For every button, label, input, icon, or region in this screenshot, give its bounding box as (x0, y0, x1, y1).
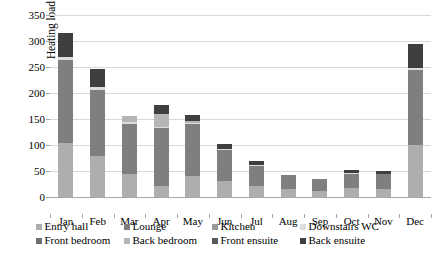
legend-label: Front ensuite (221, 235, 279, 246)
bar-jul[interactable] (249, 161, 264, 197)
plot-area: 050100150200250300350 JanFebMarAprMayJun… (50, 15, 431, 198)
bar-segment[interactable] (249, 186, 264, 197)
x-axis-tick-mark (399, 214, 400, 218)
x-axis-tick-mark (177, 214, 178, 218)
bar-segment[interactable] (90, 90, 105, 156)
bar-segment[interactable] (281, 189, 296, 197)
heating-load-stacked-bar-chart: Heating load (kWh) 050100150200250300350… (0, 0, 439, 268)
bar-dec[interactable] (408, 44, 423, 197)
bar-segment[interactable] (58, 143, 73, 197)
bar-segment[interactable] (408, 44, 423, 68)
bar-segment[interactable] (185, 124, 200, 176)
legend-row: Front bedroomBack bedroomFront ensuiteBa… (36, 235, 404, 246)
x-axis-tick-mark (272, 214, 273, 218)
chart-legend: Entry hallLoungeKitchenDownstairs WCFron… (0, 221, 439, 246)
x-axis-tick-mark (50, 214, 51, 218)
bar-segment[interactable] (58, 33, 73, 57)
bar-jan[interactable] (58, 33, 73, 197)
bar-segment[interactable] (217, 181, 232, 197)
bar-may[interactable] (185, 115, 200, 197)
y-axis-tick-label: 100 (29, 140, 46, 151)
bar-segment[interactable] (312, 179, 327, 190)
bar-oct[interactable] (344, 170, 359, 197)
bar-feb[interactable] (90, 69, 105, 197)
bar-segment[interactable] (408, 70, 423, 145)
legend-label: Downstairs WC (309, 221, 379, 232)
legend-row: Entry hallLoungeKitchenDownstairs WC (36, 221, 404, 232)
legend-item-back-bedroom[interactable]: Back bedroom (124, 235, 212, 246)
bar-segment[interactable] (154, 186, 169, 197)
legend-swatch-icon (300, 224, 306, 230)
bar-segment[interactable] (376, 189, 391, 197)
legend-label: Kitchen (221, 221, 256, 232)
x-axis-tick-mark (82, 214, 83, 218)
bars-layer (50, 15, 431, 198)
x-axis-tick-mark (368, 214, 369, 218)
bar-segment[interactable] (154, 128, 169, 185)
bar-apr[interactable] (154, 105, 169, 197)
bar-segment[interactable] (376, 174, 391, 189)
x-axis-tick-mark (114, 214, 115, 218)
bar-segment[interactable] (90, 69, 105, 88)
bar-jun[interactable] (217, 144, 232, 197)
y-axis-tick-label: 150 (29, 114, 46, 125)
legend-swatch-icon (124, 238, 130, 244)
bar-segment[interactable] (90, 156, 105, 197)
legend-swatch-icon (212, 238, 218, 244)
bar-aug[interactable] (281, 175, 296, 197)
legend-item-downstairs-wc[interactable]: Downstairs WC (300, 221, 404, 232)
x-axis-line (50, 197, 431, 198)
y-axis-tick-label: 250 (29, 62, 46, 73)
legend-label: Entry hall (45, 221, 89, 232)
bar-segment[interactable] (281, 175, 296, 189)
legend-label: Back ensuite (309, 235, 366, 246)
bar-mar[interactable] (122, 116, 137, 197)
x-axis-tick-mark (209, 214, 210, 218)
legend-swatch-icon (36, 238, 42, 244)
legend-item-kitchen[interactable]: Kitchen (212, 221, 300, 232)
legend-label: Front bedroom (45, 235, 111, 246)
legend-label: Back bedroom (133, 235, 197, 246)
legend-item-entry-hall[interactable]: Entry hall (36, 221, 124, 232)
bar-segment[interactable] (408, 145, 423, 197)
x-axis-tick-mark (431, 214, 432, 218)
legend-label: Lounge (133, 221, 167, 232)
bar-sep[interactable] (312, 179, 327, 197)
x-axis-tick-mark (336, 214, 337, 218)
legend-item-back-ensuite[interactable]: Back ensuite (300, 235, 404, 246)
y-axis-tick-label: 350 (29, 10, 46, 21)
legend-swatch-icon (212, 224, 218, 230)
legend-swatch-icon (124, 224, 130, 230)
y-axis-tick-label: 50 (34, 166, 45, 177)
legend-item-lounge[interactable]: Lounge (124, 221, 212, 232)
bar-segment[interactable] (122, 174, 137, 197)
x-axis-tick-mark (145, 214, 146, 218)
x-axis-tick-mark (241, 214, 242, 218)
y-axis-tick-label: 200 (29, 88, 46, 99)
bar-segment[interactable] (217, 150, 232, 181)
legend-swatch-icon (300, 238, 306, 244)
bar-segment[interactable] (122, 124, 137, 173)
bar-nov[interactable] (376, 171, 391, 197)
legend-item-front-bedroom[interactable]: Front bedroom (36, 235, 124, 246)
bar-segment[interactable] (344, 174, 359, 189)
bar-segment[interactable] (344, 188, 359, 197)
legend-item-front-ensuite[interactable]: Front ensuite (212, 235, 300, 246)
x-axis-tick-mark (304, 214, 305, 218)
bar-segment[interactable] (249, 166, 264, 186)
y-axis-tick-label: 0 (40, 192, 46, 203)
bar-segment[interactable] (58, 60, 73, 143)
y-axis-tick-label: 300 (29, 36, 46, 47)
bar-segment[interactable] (185, 176, 200, 197)
bar-segment[interactable] (154, 105, 169, 114)
legend-swatch-icon (36, 224, 42, 230)
bar-segment[interactable] (154, 114, 169, 126)
